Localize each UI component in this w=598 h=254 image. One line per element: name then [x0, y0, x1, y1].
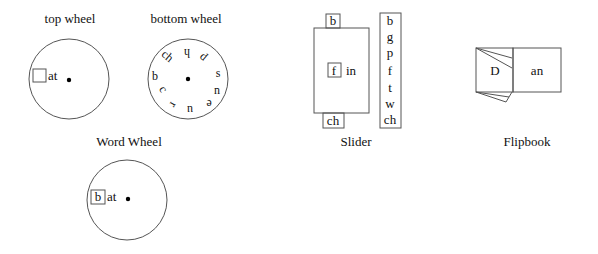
wheel-letter: u — [187, 103, 193, 117]
strip-letter: b — [387, 13, 394, 28]
wheel-letter: n — [214, 83, 220, 97]
wheel-letter: c — [156, 83, 171, 95]
wheel-letter: h — [184, 46, 190, 60]
combined-wheel-suffix: at — [107, 189, 117, 204]
wheel-letter: b — [152, 69, 158, 83]
flipbook-right-page: an — [531, 63, 544, 78]
top-wheel-center-dot — [67, 78, 71, 82]
strip-letter: ch — [384, 112, 397, 127]
top-wheel-slot — [33, 69, 46, 82]
top-wheel-suffix: at — [48, 68, 58, 83]
slider-card — [314, 14, 369, 128]
flipbook-left-page: D — [490, 63, 499, 78]
slider-window-letter: f — [332, 63, 337, 78]
strip-letter: t — [388, 80, 392, 95]
flipbook-title: Flipbook — [504, 134, 551, 149]
bottom-wheel-label: bottom wheel — [150, 11, 222, 26]
slider-strip-letters: b g p f t w ch — [384, 13, 397, 127]
wheel-letter: p — [196, 51, 210, 66]
slider-title: Slider — [340, 134, 372, 149]
wheel-letter: r — [166, 100, 180, 110]
strip-letter: w — [385, 96, 395, 111]
word-wheel-title: Word Wheel — [96, 134, 162, 149]
slider-top-tab-letter: b — [330, 13, 337, 28]
top-wheel-label: top wheel — [45, 11, 96, 26]
bottom-wheel-center-dot — [186, 77, 190, 81]
strip-letter: g — [387, 29, 394, 44]
flipbook — [476, 48, 561, 102]
slider-suffix: in — [346, 63, 357, 78]
wheel-letter: e — [206, 97, 211, 111]
strip-letter: f — [388, 63, 393, 78]
wheel-letter: s — [216, 66, 221, 80]
combined-wheel-slot-letter: b — [95, 189, 102, 204]
strip-letter: p — [387, 45, 394, 60]
reading-devices-diagram: top wheel bottom wheel Word Wheel at h p… — [0, 0, 598, 254]
combined-wheel-center-dot — [126, 197, 130, 201]
slider-bottom-tab-letter: ch — [327, 113, 340, 128]
bottom-wheel-letters: h p s n e u r c b ch — [152, 46, 221, 117]
